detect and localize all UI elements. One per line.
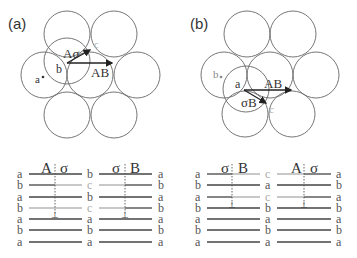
point-a-dot bbox=[42, 76, 45, 79]
svg-text:⊥: ⊥ bbox=[228, 200, 236, 210]
svg-text:a: a bbox=[158, 235, 164, 249]
svg-text:a: a bbox=[195, 235, 201, 249]
point-b-label: b bbox=[56, 62, 62, 76]
stacking-b: σ B A σ aba baba cac baba aba baba ⊥ bbox=[195, 160, 342, 249]
panel-a-label: (a) bbox=[8, 15, 26, 32]
point-b-dot bbox=[220, 76, 223, 79]
dislocation-symbol: ⊥ bbox=[51, 210, 59, 220]
svg-text:a: a bbox=[87, 235, 93, 249]
point-a-b-label: a bbox=[235, 77, 241, 91]
panel-b-label: (b) bbox=[190, 15, 208, 32]
point-c-label: c bbox=[94, 39, 99, 50]
svg-text:⊥: ⊥ bbox=[300, 200, 308, 210]
vector-ab-b-label: AB bbox=[264, 76, 282, 91]
stacking-a: A σ σ B aba baba bcb caba aba baba ⊥ bbox=[17, 160, 164, 249]
svg-text:a: a bbox=[17, 235, 23, 249]
svg-text:⊥: ⊥ bbox=[121, 210, 129, 220]
svg-text:a: a bbox=[265, 235, 271, 249]
vector-a-sigma-label: Aσ bbox=[63, 46, 79, 61]
point-c-b-label: c bbox=[269, 103, 274, 115]
point-a-label: a bbox=[35, 73, 40, 85]
svg-text:a: a bbox=[336, 235, 342, 249]
vector-ab-label: AB bbox=[91, 65, 109, 80]
diagram-canvas: (a) Aσ AB c b a (b) AB σB c a b A σ σ B … bbox=[0, 0, 357, 258]
vector-sigma-b-label: σB bbox=[241, 95, 257, 110]
point-b-b-label: b bbox=[213, 68, 219, 80]
panel-b-circles bbox=[201, 11, 339, 137]
